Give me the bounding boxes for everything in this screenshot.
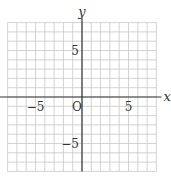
y-axis-label: y [77,4,86,19]
origin-label: O [72,100,82,114]
y-tick-label-5: 5 [71,44,79,58]
coordinate-plane: x y O −5 5 5 −5 [0,0,171,184]
x-axis-label: x [163,89,171,104]
y-tick-label-neg5: −5 [61,137,79,151]
x-tick-label-neg5: −5 [27,100,45,114]
x-tick-label-5: 5 [125,100,133,114]
